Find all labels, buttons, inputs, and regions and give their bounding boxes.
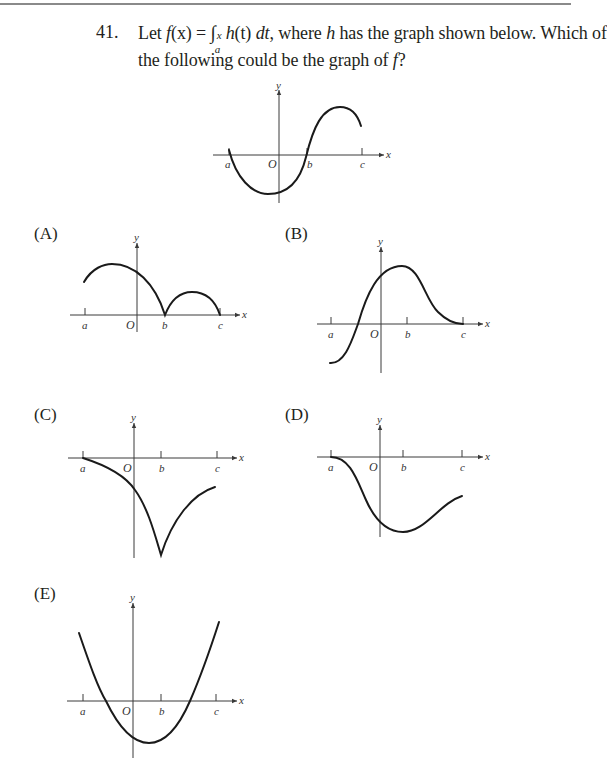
svg-text:y: y — [377, 235, 383, 247]
svg-text:c: c — [214, 705, 219, 717]
svg-text:c: c — [461, 328, 466, 340]
svg-text:y: y — [129, 591, 135, 603]
svg-text:b: b — [159, 462, 165, 474]
svg-text:x: x — [238, 694, 244, 706]
graph-option-a[interactable] — [70, 243, 240, 332]
svg-text:x: x — [238, 451, 244, 463]
svg-text:a: a — [328, 461, 334, 473]
graph-option-e[interactable] — [67, 603, 237, 758]
svg-text:a: a — [80, 705, 86, 717]
given-graph-h — [213, 90, 384, 203]
curve-a — [84, 264, 220, 315]
graph-option-c[interactable] — [68, 423, 237, 558]
svg-text:x: x — [385, 148, 391, 160]
svg-text:a: a — [82, 319, 88, 331]
svg-text:O: O — [123, 461, 132, 475]
curve-h — [229, 107, 361, 194]
svg-text:b: b — [159, 705, 165, 717]
svg-text:O: O — [122, 704, 131, 718]
svg-text:x: x — [484, 450, 490, 462]
svg-text:x: x — [241, 308, 247, 320]
svg-text:y: y — [376, 413, 382, 425]
svg-text:y: y — [133, 231, 139, 243]
svg-text:O: O — [370, 327, 379, 341]
svg-text:b: b — [162, 319, 168, 331]
svg-text:O: O — [126, 318, 135, 332]
svg-text:a: a — [225, 158, 231, 170]
svg-text:y: y — [130, 411, 136, 423]
axis-labels: y x a O b c y x a O b c y x a O b c y x … — [80, 79, 490, 718]
graph-option-d[interactable] — [317, 425, 483, 537]
svg-text:O: O — [369, 460, 378, 474]
curve-c — [83, 458, 215, 555]
curve-d — [331, 457, 462, 532]
svg-text:y: y — [275, 79, 281, 91]
svg-text:b: b — [307, 158, 313, 170]
curve-b — [330, 266, 463, 363]
svg-text:a: a — [80, 462, 86, 474]
svg-text:c: c — [360, 158, 365, 170]
svg-text:c: c — [215, 462, 220, 474]
svg-text:c: c — [460, 461, 465, 473]
svg-text:b: b — [401, 461, 407, 473]
svg-text:a: a — [328, 328, 334, 340]
svg-text:b: b — [405, 328, 411, 340]
svg-text:x: x — [484, 317, 490, 329]
curve-e — [79, 622, 219, 743]
svg-text:O: O — [268, 157, 277, 171]
svg-text:c: c — [218, 319, 223, 331]
graph-option-b[interactable] — [317, 247, 483, 373]
